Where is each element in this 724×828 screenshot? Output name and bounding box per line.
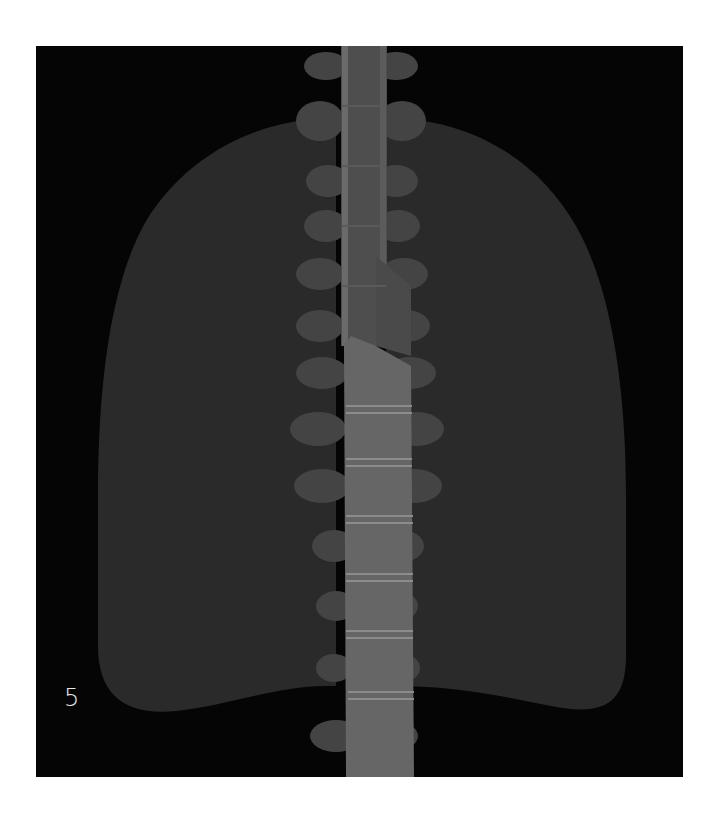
panel-label: 5 [64, 684, 79, 712]
xray-illustration [36, 46, 683, 777]
xray-image: 5 [36, 46, 683, 777]
